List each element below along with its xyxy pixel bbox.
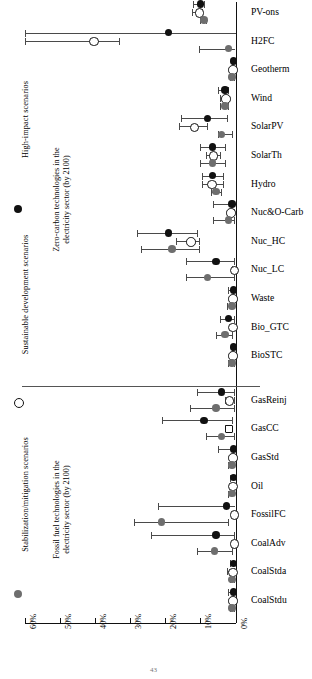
data-point-gray bbox=[228, 461, 236, 469]
error-bar-cap bbox=[220, 316, 221, 323]
category-label: CoalStda bbox=[251, 565, 286, 576]
x-axis-tick-label: 10% bbox=[204, 614, 213, 629]
error-bar-cap bbox=[234, 532, 235, 539]
x-axis-tick bbox=[25, 618, 26, 623]
data-point-open bbox=[186, 237, 196, 247]
data-point-gray bbox=[218, 131, 226, 139]
error-bar-cap bbox=[206, 433, 207, 440]
data-point-gray bbox=[204, 274, 212, 282]
error-bar-cap bbox=[218, 87, 219, 94]
group-separator-line bbox=[22, 386, 260, 387]
category-label: Nuc_LC bbox=[251, 263, 284, 274]
data-point-black bbox=[212, 531, 220, 539]
error-bar-cap bbox=[25, 38, 26, 45]
error-bar-cap bbox=[225, 160, 226, 167]
category-label: GasStd bbox=[251, 451, 279, 462]
error-bar-cap bbox=[200, 160, 201, 167]
error-bar-cap bbox=[223, 181, 224, 188]
error-bar-cap bbox=[218, 446, 219, 453]
error-bar-cap bbox=[162, 417, 163, 424]
data-point-black bbox=[223, 502, 231, 510]
error-bar-cap bbox=[225, 144, 226, 151]
error-bar-cap bbox=[200, 144, 201, 151]
error-bar-cap bbox=[199, 246, 200, 253]
data-point-gray bbox=[221, 102, 229, 110]
error-bar-cap bbox=[232, 131, 233, 138]
data-point-open bbox=[230, 510, 240, 520]
category-label: Nuc_HC bbox=[251, 235, 285, 246]
category-label: GasCC bbox=[251, 422, 279, 433]
error-bar-cap bbox=[192, 9, 193, 16]
x-axis-tick bbox=[165, 618, 166, 623]
data-point-open bbox=[190, 123, 200, 133]
error-bar-cap bbox=[202, 173, 203, 180]
data-point-gray bbox=[228, 576, 236, 584]
error-bar bbox=[197, 392, 234, 393]
error-bar-cap bbox=[141, 246, 142, 253]
error-bar-cap bbox=[199, 238, 200, 245]
category-label: GasReinj bbox=[251, 394, 287, 405]
error-bar-cap bbox=[234, 274, 235, 281]
data-point-gray bbox=[225, 216, 233, 224]
error-bar-cap bbox=[207, 123, 208, 130]
error-bar-cap bbox=[193, 1, 194, 8]
data-point-open bbox=[230, 266, 240, 276]
x-axis-tick-label: 30% bbox=[134, 614, 143, 629]
category-label: SolarTh bbox=[251, 149, 282, 160]
error-bar-cap bbox=[151, 532, 152, 539]
error-bar bbox=[151, 535, 234, 536]
error-bar-cap bbox=[221, 189, 222, 196]
x-axis-tick-label: 20% bbox=[169, 614, 178, 629]
data-point-gray bbox=[158, 518, 166, 526]
y-axis-line bbox=[236, 2, 237, 623]
error-bar-cap bbox=[158, 503, 159, 510]
x-axis-tick bbox=[95, 618, 96, 623]
x-axis-tick-label: 40% bbox=[99, 614, 108, 629]
error-bar-cap bbox=[213, 201, 214, 208]
error-bar-cap bbox=[234, 217, 235, 224]
data-point-black bbox=[212, 258, 220, 266]
error-bar-cap bbox=[197, 548, 198, 555]
error-bar-cap bbox=[234, 433, 235, 440]
error-bar-cap bbox=[232, 417, 233, 424]
error-bar-cap bbox=[179, 123, 180, 130]
error-bar-cap bbox=[234, 258, 235, 265]
data-point-gray bbox=[221, 331, 229, 339]
category-label: Hydro bbox=[251, 178, 276, 189]
data-point-gray bbox=[228, 302, 236, 310]
category-label: PV-ons bbox=[251, 6, 279, 17]
error-bar-cap bbox=[119, 38, 120, 45]
error-bar-cap bbox=[197, 230, 198, 237]
error-bar-cap bbox=[190, 405, 191, 412]
data-point-black bbox=[228, 200, 236, 208]
data-point-open bbox=[225, 425, 233, 433]
data-point-open bbox=[89, 37, 99, 47]
x-axis-tick bbox=[60, 618, 61, 623]
error-bar-cap bbox=[232, 332, 233, 339]
x-axis-tick-label: 0% bbox=[240, 618, 249, 629]
error-bar-cap bbox=[213, 217, 214, 224]
x-axis-tick bbox=[130, 618, 131, 623]
category-label: H2FC bbox=[251, 35, 274, 46]
data-point-black bbox=[225, 315, 233, 323]
error-bar-cap bbox=[234, 405, 235, 412]
data-point-black bbox=[165, 29, 173, 37]
data-point-black bbox=[200, 417, 208, 425]
page-number: 43 bbox=[150, 666, 157, 674]
error-bar-cap bbox=[227, 115, 228, 122]
data-point-gray bbox=[218, 433, 226, 441]
error-bar-cap bbox=[223, 173, 224, 180]
error-bar-cap bbox=[25, 30, 26, 37]
error-bar-cap bbox=[181, 115, 182, 122]
category-label: CoalAdv bbox=[251, 537, 286, 548]
plot-area: 60%50%40%30%20%10%0%PV-onsH2FCGeothermWi… bbox=[0, 0, 312, 679]
error-bar bbox=[25, 41, 120, 42]
x-axis-tick-label: 50% bbox=[64, 614, 73, 629]
data-point-gray bbox=[225, 45, 233, 53]
category-label: Bio_GTC bbox=[251, 321, 289, 332]
data-point-black bbox=[165, 229, 173, 237]
category-label: CoalStdu bbox=[251, 594, 287, 605]
error-bar-cap bbox=[206, 152, 207, 159]
category-label: SolarPV bbox=[251, 120, 284, 131]
data-point-gray bbox=[168, 245, 176, 253]
